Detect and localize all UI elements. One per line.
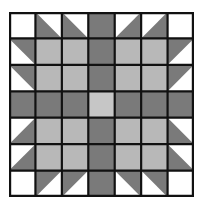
quilt-cell <box>62 118 88 144</box>
quilt-cell <box>168 38 194 64</box>
quilt-block <box>9 12 194 197</box>
quilt-cell <box>168 91 194 117</box>
quilt-cell <box>141 38 167 64</box>
quilt-cell <box>88 12 114 38</box>
quilt-cell <box>168 65 194 91</box>
quilt-cell <box>88 38 114 64</box>
quilt-cell <box>115 144 141 170</box>
quilt-cell <box>35 171 61 197</box>
quilt-cell <box>35 91 61 117</box>
quilt-cell <box>168 144 194 170</box>
quilt-cell <box>115 38 141 64</box>
quilt-cell <box>62 171 88 197</box>
quilt-cell <box>9 12 35 38</box>
quilt-cell <box>35 12 61 38</box>
quilt-cell <box>168 171 194 197</box>
quilt-cell <box>115 65 141 91</box>
quilt-cell <box>9 171 35 197</box>
quilt-cell <box>141 91 167 117</box>
quilt-cell <box>141 65 167 91</box>
quilt-cell <box>35 118 61 144</box>
quilt-cell <box>62 144 88 170</box>
quilt-cell <box>62 12 88 38</box>
quilt-cell <box>62 38 88 64</box>
quilt-cell <box>115 118 141 144</box>
quilt-cell <box>168 12 194 38</box>
quilt-cell <box>141 118 167 144</box>
quilt-cell <box>9 38 35 64</box>
quilt-cell <box>115 91 141 117</box>
quilt-cell <box>9 65 35 91</box>
quilt-cell <box>62 91 88 117</box>
quilt-cell <box>141 12 167 38</box>
quilt-cell <box>9 91 35 117</box>
quilt-cell <box>115 12 141 38</box>
quilt-cell <box>88 65 114 91</box>
quilt-cell <box>9 118 35 144</box>
quilt-cell <box>88 118 114 144</box>
quilt-cell <box>62 65 88 91</box>
quilt-cell <box>35 38 61 64</box>
quilt-cell <box>35 65 61 91</box>
quilt-cell <box>88 171 114 197</box>
quilt-cell <box>141 144 167 170</box>
quilt-cell <box>88 144 114 170</box>
quilt-cell <box>141 171 167 197</box>
quilt-cell <box>115 171 141 197</box>
quilt-cell <box>35 144 61 170</box>
quilt-cell <box>9 144 35 170</box>
quilt-cell <box>168 118 194 144</box>
quilt-grid <box>9 12 194 197</box>
quilt-cell <box>88 91 114 117</box>
